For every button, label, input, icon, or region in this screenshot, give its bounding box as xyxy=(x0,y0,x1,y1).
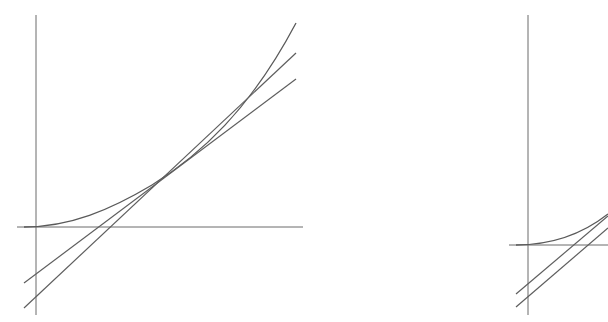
right-line-b xyxy=(516,216,608,294)
right-line-a xyxy=(516,228,608,307)
left-line-b xyxy=(24,79,296,283)
left-convex-curve xyxy=(24,23,296,227)
right-panel xyxy=(509,15,608,315)
diagram-canvas xyxy=(0,0,608,322)
left-panel xyxy=(17,15,303,315)
